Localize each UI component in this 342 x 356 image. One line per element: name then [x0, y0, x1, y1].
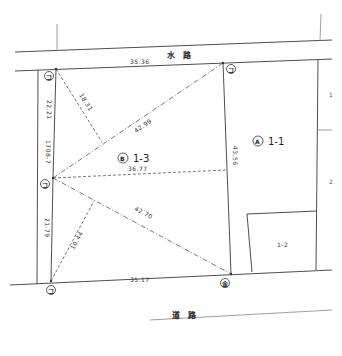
dim-diag-top-right: 42.99: [133, 117, 153, 134]
diagonal-bottom-right: [53, 178, 231, 274]
road-label: 道 路: [172, 310, 197, 320]
parcel-b-right-boundary: [223, 63, 231, 274]
parcel-b-mark: B: [120, 155, 125, 162]
parcel-1-2-label: 1-2: [277, 241, 288, 248]
dim-perp-lower: 10.44: [69, 230, 84, 251]
dim-diag-bottom-right: 42.70: [134, 205, 155, 220]
point-mark-bottom-right: 金: [221, 280, 229, 288]
road-top-line: [10, 270, 332, 285]
waterway-bottom-line: [15, 59, 332, 71]
strip-left-line: [37, 70, 38, 284]
side-label-2: 2: [329, 178, 333, 185]
dim-bottom-edge: 35.17: [130, 276, 150, 283]
point-mark-top-right: コ: [228, 66, 234, 73]
dim-left-lower: 21.79: [44, 218, 51, 238]
waterway-label: 水 路: [166, 50, 192, 60]
survey-diagram: 35.36 35.17 22.21 1708-7 21.79 43.56 42.…: [0, 0, 342, 356]
dim-top-edge: 35.36: [130, 58, 150, 65]
vertex-top-left: [55, 68, 57, 70]
vertex-bottom-left: [50, 280, 52, 282]
point-mark-top-left: コ: [46, 73, 52, 80]
perpendicular-upper: [56, 69, 102, 142]
dim-right-edge: 43.56: [232, 146, 239, 166]
dim-perp-upper: 18.31: [78, 92, 94, 112]
point-mark-left-mid: コ: [42, 181, 48, 188]
dim-left-upper: 22.21: [46, 100, 53, 120]
upper-boundary-right: [320, 14, 321, 41]
point-mark-bottom-left: コ: [48, 287, 54, 294]
vertex-bottom-right: [230, 273, 232, 275]
parcel-a-right-boundary: [316, 60, 318, 270]
parcel-1708-7-label: 1708-7: [45, 140, 52, 164]
dim-horizontal-mid: 36.77: [128, 165, 148, 172]
parcel-b-label: 1-3: [133, 153, 149, 164]
parcel-a-label: 1-1: [268, 136, 284, 147]
vertex-left-mid: [52, 177, 54, 179]
parcel-a-mark: A: [255, 138, 260, 145]
side-label-1: 1: [329, 91, 333, 98]
vertex-top-right: [222, 62, 224, 64]
